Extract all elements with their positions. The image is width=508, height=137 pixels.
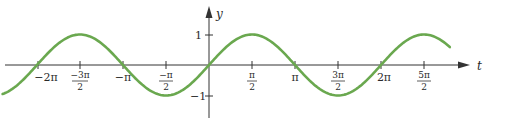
x-tick-label-negpi2: −π 2 — [159, 70, 173, 92]
y-axis-arrow-icon — [206, 6, 213, 18]
x-tick-label-2pi: 2π — [377, 71, 391, 84]
svg-text:2: 2 — [77, 82, 83, 92]
x-tick-label-5pi2: 5π 2 — [417, 70, 431, 92]
sine-chart: t y 1 −1 −2π −3π 2 −π −π 2 π 2 π 3π — [0, 0, 508, 137]
svg-text:2: 2 — [421, 82, 427, 92]
svg-text:3π: 3π — [332, 70, 344, 80]
svg-text:2: 2 — [249, 82, 255, 92]
y-tick-label-neg1: −1 — [190, 90, 206, 103]
svg-text:5π: 5π — [418, 70, 430, 80]
x-tick-label-neg2pi: −2π — [34, 71, 57, 84]
x-tick-label-pi2: π 2 — [247, 70, 257, 92]
t-axis-label: t — [477, 59, 482, 73]
svg-text:π: π — [249, 70, 255, 80]
y-axis-label: y — [215, 7, 223, 21]
x-tick-label-pi: π — [291, 71, 298, 84]
x-tick-label-3pi2: 3π 2 — [331, 70, 345, 92]
svg-text:−3π: −3π — [70, 70, 89, 80]
x-tick-label-neg3pi2: −3π 2 — [70, 70, 89, 92]
svg-text:2: 2 — [335, 82, 341, 92]
svg-text:2: 2 — [163, 82, 169, 92]
y-tick-label-1: 1 — [195, 29, 202, 42]
t-axis-arrow-icon — [458, 62, 470, 69]
svg-text:−π: −π — [159, 70, 173, 80]
